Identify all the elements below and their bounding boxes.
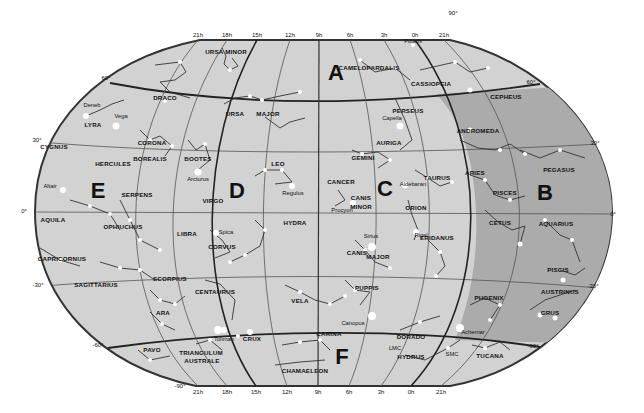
star-label: Aldebaran [400, 181, 426, 187]
ra-tick-top: 6h [347, 32, 354, 38]
constellation-label: AQUILA [41, 216, 66, 223]
star-label: SMC [446, 351, 459, 357]
constellation-label: CASSIOPEIA [411, 80, 451, 87]
dec-tick: -90° [174, 383, 186, 389]
star-label: Regulus [282, 190, 303, 196]
constellation-label: HERCULES [95, 160, 131, 167]
constellation-label: SAGITTARIUS [74, 281, 118, 288]
constellation-label: CETUS [489, 219, 511, 226]
constellation-label: HYDRA [283, 219, 306, 226]
star-label: Sirius [364, 233, 379, 239]
constellation-label: LEO [271, 160, 284, 167]
dec-tick: 90° [448, 10, 458, 16]
dec-tick: 60° [526, 79, 536, 85]
star-label: Canopus [341, 320, 364, 326]
constellation-label: LYRA [84, 121, 101, 128]
constellation-label: PISCIS [547, 266, 569, 273]
ra-tick-bottom: 3h [378, 389, 385, 395]
constellation-label: AQUARIUS [539, 220, 574, 227]
constellation-label: MAJOR [366, 253, 390, 260]
dec-tick: 30° [590, 140, 600, 146]
constellation-label: ANDROMEDA [457, 127, 500, 134]
ra-tick-top: 0h [412, 32, 419, 38]
constellation-label: CORVUS [208, 243, 236, 250]
constellation-label: CYGNUS [40, 143, 68, 150]
constellation-label: CAMELOPARDALIS [339, 64, 400, 71]
constellation-label: CANCER [327, 178, 355, 185]
constellation-label: SCORPIUS [153, 275, 187, 282]
constellation-label: AUSTRINUS [541, 288, 579, 295]
ra-tick-top: 12h [285, 32, 295, 38]
constellation-label: URSA MINOR [205, 48, 247, 55]
dec-tick: -30° [587, 283, 599, 289]
star-label: Procyon [331, 207, 352, 213]
dec-tick: 0° [610, 211, 616, 217]
constellation-label: PISCES [493, 189, 517, 196]
dec-tick: 60° [101, 75, 111, 81]
star-label: Altair [43, 183, 56, 189]
ra-tick-bottom: 18h [222, 389, 232, 395]
ra-tick-top: 21h [193, 32, 203, 38]
constellation-label: DORADO [397, 333, 426, 340]
ra-tick-bottom: 21h [436, 389, 446, 395]
zone-label: D [229, 178, 245, 203]
constellation-label: ARA [156, 309, 170, 316]
ra-tick-bottom: 12h [282, 389, 292, 395]
constellation-label: AUSTRALE [184, 357, 219, 364]
star-label: Toliman [214, 336, 234, 342]
dec-tick: 30° [32, 137, 42, 143]
zone-label: E [91, 178, 106, 203]
constellation-label: LIBRA [177, 230, 197, 237]
constellation-label: CANIS [351, 194, 371, 201]
constellation-label: ORION [405, 204, 427, 211]
constellation-label: AURIGA [376, 139, 402, 146]
dec-tick: -60° [92, 342, 104, 348]
star-label: Capella [382, 115, 402, 121]
constellation-label: VELA [291, 297, 309, 304]
ra-tick-bottom: 21h [193, 389, 203, 395]
constellation-label: TUCANA [476, 352, 504, 359]
constellation-label: MINOR [350, 203, 372, 210]
constellation-label: GEMINI [351, 154, 374, 161]
constellation-label: PAVO [143, 346, 160, 353]
constellation-label: CHAMAELEON [282, 367, 329, 374]
constellation-label: CRUX [243, 335, 262, 342]
dec-tick: 0° [21, 208, 27, 214]
constellation-label: CANIS [347, 249, 367, 256]
star-label: Arcturus [187, 176, 209, 182]
constellation-label: SERPENS [122, 191, 153, 198]
constellation-label: BOOTES [184, 155, 211, 162]
constellation-label: CENTAURUS [195, 288, 235, 295]
constellation-label: CORONA [138, 139, 167, 146]
zone-label: C [377, 176, 393, 201]
star-label: LMC [389, 345, 401, 351]
star-label: Polaris [404, 38, 422, 44]
ra-tick-top: 3h [381, 32, 388, 38]
ra-tick-bottom: 9h [315, 389, 322, 395]
constellation-label: MAJOR [256, 110, 280, 117]
star-label: Rigel [414, 232, 427, 238]
star-label: Deneb [83, 102, 100, 108]
ra-tick-top: 15h [252, 32, 262, 38]
constellation-label: PHOENIX [474, 294, 504, 301]
constellation-label: PUPPIS [355, 284, 379, 291]
dec-tick: -60° [527, 343, 539, 349]
constellation-label: DRACO [153, 94, 177, 101]
constellation-label: CAPRICORNUS [38, 255, 86, 262]
zone-label: F [335, 344, 348, 369]
constellation-label: PERSEUS [393, 107, 424, 114]
constellation-label: CEPHEUS [490, 93, 521, 100]
star-label: Vega [114, 113, 128, 119]
constellation-label: HYDRUS [397, 353, 424, 360]
ra-tick-top: 9h [316, 32, 323, 38]
ra-tick-top: 21h [439, 32, 449, 38]
constellation-label: PEGASUS [543, 166, 575, 173]
constellation-label: URSA [226, 110, 245, 117]
zone-label: B [537, 180, 553, 205]
constellation-label: OPHIUCHUS [104, 223, 143, 230]
ra-tick-bottom: 0h [408, 389, 415, 395]
constellation-label: VIRGO [203, 197, 224, 204]
star-label: Spica [219, 229, 234, 235]
constellation-label: TAURUS [424, 174, 451, 181]
constellation-label: TRIANGULUM [179, 349, 223, 356]
